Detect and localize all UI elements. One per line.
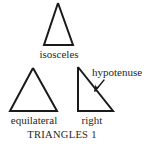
equilateral-triangle-shape (10, 68, 57, 111)
equilateral-label: equilateral (11, 114, 57, 126)
figure-caption: TRIANGLES 1 (27, 129, 97, 140)
isosceles-label: isosceles (39, 48, 78, 60)
right-label: right (82, 114, 103, 126)
triangles-figure: isosceles equilateral right hypotenuse T… (0, 0, 149, 146)
triangles-diagram-svg: isosceles equilateral right hypotenuse T… (0, 0, 149, 146)
isosceles-triangle-shape (44, 3, 73, 45)
hypotenuse-label: hypotenuse (92, 66, 142, 78)
